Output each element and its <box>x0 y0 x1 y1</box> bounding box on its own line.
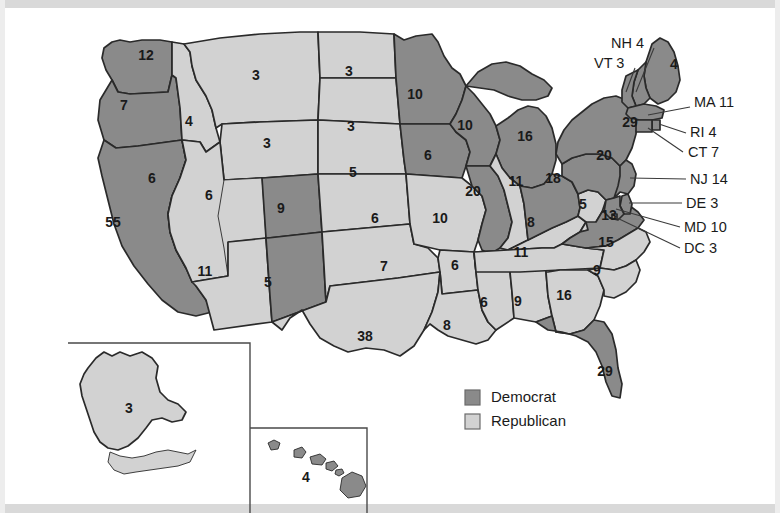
label-HI: 4 <box>302 469 310 485</box>
label-MO: 10 <box>432 210 448 226</box>
label-AL: 9 <box>514 293 522 309</box>
callout-DE: DE 3 <box>686 195 718 211</box>
state-AK-aleutians <box>108 450 196 474</box>
leader-CT <box>648 128 683 152</box>
label-SC: 9 <box>593 262 601 278</box>
us-electoral-map: 12 7 55 6 4 3 3 6 11 9 5 3 3 5 6 7 38 10… <box>0 0 780 513</box>
label-SD: 3 <box>347 118 355 134</box>
label-NM: 5 <box>264 274 272 290</box>
label-KY: 8 <box>527 214 535 230</box>
label-WY: 3 <box>263 135 271 151</box>
label-FL: 29 <box>597 363 613 379</box>
state-SD[interactable] <box>318 78 400 124</box>
state-MN[interactable] <box>394 34 466 124</box>
label-LA: 8 <box>443 317 451 333</box>
state-CT[interactable] <box>636 120 652 132</box>
label-OK: 7 <box>380 258 388 274</box>
label-CA: 55 <box>105 214 121 230</box>
leader-NJ <box>630 178 686 179</box>
label-IN: 11 <box>509 173 524 189</box>
callout-MD: MD 10 <box>684 219 727 235</box>
label-UT: 6 <box>148 170 156 186</box>
label-KS: 6 <box>371 210 379 226</box>
legend-label-republican: Republican <box>491 412 566 429</box>
label-AR: 6 <box>451 257 459 273</box>
label-MS: 6 <box>480 294 488 310</box>
legend-label-democrat: Democrat <box>491 388 557 405</box>
state-NE[interactable] <box>318 120 406 174</box>
callout-CT: CT 7 <box>688 144 719 160</box>
label-TN: 11 <box>514 244 529 260</box>
label-IL: 20 <box>465 183 481 199</box>
label-NY: 29 <box>622 114 638 130</box>
label-WI: 10 <box>457 117 473 133</box>
label-ID: 4 <box>185 113 193 129</box>
state-RI[interactable] <box>652 120 660 130</box>
state-ND[interactable] <box>318 32 396 78</box>
label-OR: 7 <box>120 97 128 113</box>
state-AK[interactable] <box>80 352 186 450</box>
callout-MA: MA 11 <box>694 94 734 110</box>
state-CO[interactable] <box>262 174 322 238</box>
republican-swatch <box>465 414 480 429</box>
callout-DC: DC 3 <box>684 240 717 256</box>
label-TX: 38 <box>357 328 373 344</box>
label-MN: 10 <box>407 86 423 102</box>
electoral-map-figure: 12 7 55 6 4 3 3 6 11 9 5 3 3 5 6 7 38 10… <box>0 0 780 513</box>
label-MI: 16 <box>517 128 533 144</box>
label-AK: 3 <box>125 400 133 416</box>
label-VA: 13 <box>601 207 617 223</box>
label-GA: 16 <box>556 287 572 303</box>
label-NE: 5 <box>349 164 357 180</box>
label-IA: 6 <box>424 147 432 163</box>
label-ND: 3 <box>345 63 353 79</box>
label-PA: 20 <box>596 147 612 163</box>
label-MT: 3 <box>252 67 260 83</box>
callout-NJ: NJ 14 <box>690 171 728 187</box>
label-ME: 4 <box>670 56 678 72</box>
label-AZ: 11 <box>198 263 213 279</box>
leader-RI <box>659 124 686 133</box>
callout-NH: NH 4 <box>611 35 644 51</box>
callout-RI: RI 4 <box>690 124 717 140</box>
label-CO: 9 <box>277 200 285 216</box>
state-HI[interactable] <box>268 440 366 498</box>
label-WV: 5 <box>579 196 587 212</box>
label-WA: 12 <box>138 47 154 63</box>
label-OH: 18 <box>545 170 561 186</box>
label-NC: 15 <box>598 234 614 250</box>
callout-VT: VT 3 <box>594 55 624 71</box>
democrat-swatch <box>465 390 480 405</box>
label-NV: 6 <box>205 187 213 203</box>
state-KS[interactable] <box>318 174 410 232</box>
map-legend: Democrat Republican <box>465 388 566 429</box>
